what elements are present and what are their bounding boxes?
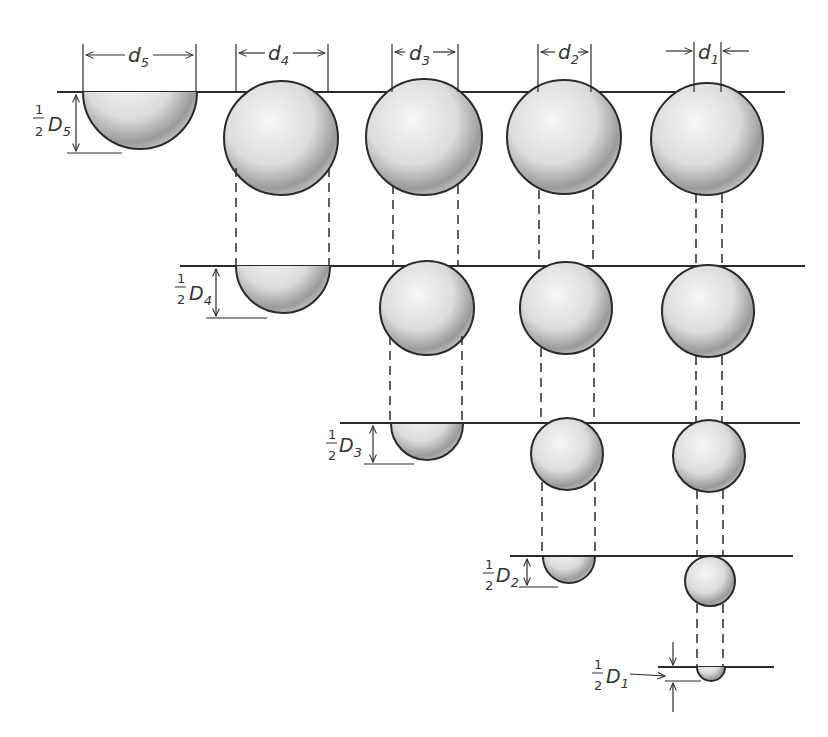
sphere-2-row1 [507, 80, 621, 194]
sphere-4-row2 [236, 219, 330, 313]
sphere-1-row4 [685, 556, 735, 606]
label-half-D1: 1 2 D1 [592, 657, 629, 693]
svg-text:D4: D4 [189, 282, 212, 308]
label-d3: d [409, 41, 422, 65]
sphere-1-row3 [673, 420, 745, 492]
label-d1: d [698, 40, 711, 64]
svg-text:1: 1 [594, 657, 602, 672]
sphere-4-row1 [224, 81, 338, 195]
svg-text:d3: d3 [409, 41, 430, 68]
sphere-2-row2 [520, 262, 612, 354]
svg-text:2: 2 [485, 578, 493, 593]
label-d5: d [128, 43, 141, 67]
label-d4: d [268, 41, 281, 65]
top-labels: d5 d4 d3 d2 d1 [128, 40, 719, 70]
sphere-2-row3 [531, 418, 603, 490]
sphere-1-row2 [662, 265, 754, 357]
svg-text:1: 1 [328, 427, 336, 442]
svg-text:D5: D5 [48, 113, 71, 139]
depth-dimensions [67, 95, 701, 712]
svg-text:1: 1 [485, 557, 493, 572]
sphere-1-row5 [697, 653, 725, 681]
projection-lines [236, 168, 723, 667]
svg-text:1: 1 [35, 102, 43, 117]
svg-text:d4: d4 [268, 41, 289, 68]
svg-text:2: 2 [35, 124, 43, 139]
sphere-3-row3 [391, 388, 463, 460]
svg-text:1: 1 [177, 271, 185, 286]
svg-text:2: 2 [594, 678, 602, 693]
svg-text:2: 2 [328, 448, 336, 463]
sphere-1-row1 [651, 83, 763, 195]
svg-text:d1: d1 [698, 40, 719, 67]
svg-text:D2: D2 [496, 564, 519, 590]
sphere-indentation-diagram: d5 d4 d3 d2 d1 1 2 D5 1 2 D4 1 2 D3 1 [0, 0, 828, 737]
svg-text:D1: D1 [606, 665, 629, 691]
sphere-3-row2 [380, 261, 474, 355]
svg-text:d5: d5 [128, 43, 149, 70]
label-half-D3: 1 2 D3 [326, 427, 362, 463]
label-half-D2: 1 2 D2 [483, 557, 519, 593]
svg-text:d2: d2 [558, 40, 579, 67]
svg-text:D3: D3 [339, 434, 362, 460]
label-d2: d [558, 40, 571, 64]
label-half-D5: 1 2 D5 [33, 102, 71, 139]
svg-text:2: 2 [177, 292, 185, 307]
sphere-3-row1 [366, 79, 482, 195]
sphere-2-row4 [543, 531, 595, 583]
label-half-D4: 1 2 D4 [175, 271, 212, 308]
